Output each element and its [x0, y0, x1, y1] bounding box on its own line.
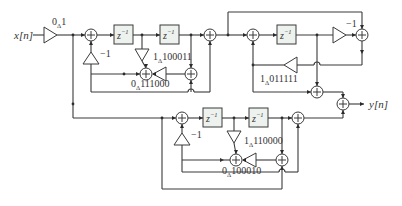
input-gain-icon: [44, 27, 57, 43]
right-coef-icon: [284, 57, 297, 73]
delay-box-2: z−1: [160, 25, 179, 44]
delay-box-1: z−1: [114, 25, 133, 44]
lower-coef-a-icon: [227, 131, 241, 143]
output-label: y[n]: [368, 98, 388, 110]
delay-box-5: z−1: [249, 108, 268, 127]
right-adder-1: [247, 29, 259, 41]
upper-coef-a-icon: [135, 49, 149, 61]
output-adder: [337, 98, 349, 110]
signal-flow-diagram: x[n] 0Δ1 z−1 z−1 −1 1Δ100011: [0, 0, 402, 206]
lower-adder-2: [292, 112, 304, 124]
lower-coef-a-label: 1Δ110000: [244, 135, 283, 148]
adder-1: [85, 29, 97, 41]
right-coef-label: 1Δ011111: [260, 73, 298, 86]
upper-adder-b: [185, 68, 197, 80]
upper-feedback-gain-label: −1: [100, 48, 111, 59]
right-adder-2: [356, 29, 368, 41]
upper-feedback-gain-icon: [83, 52, 99, 64]
delay-box-4: z−1: [203, 108, 222, 127]
input-gain-label: 0Δ1: [52, 16, 66, 29]
lower-adder-b: [276, 154, 288, 166]
upper-coef-a-label: 1Δ100011: [153, 51, 192, 64]
right-adder-3: [311, 86, 323, 98]
adder-2: [204, 29, 216, 41]
input-label: x[n]: [13, 29, 33, 41]
lower-adder-1: [176, 112, 188, 124]
delay-box-3: z−1: [277, 25, 296, 44]
right-forward-gain-label: −1: [346, 18, 357, 29]
right-forward-gain-icon: [333, 27, 346, 43]
lower-feedback-gain-icon: [174, 133, 190, 145]
lower-feedback-gain-label: −1: [191, 129, 202, 140]
